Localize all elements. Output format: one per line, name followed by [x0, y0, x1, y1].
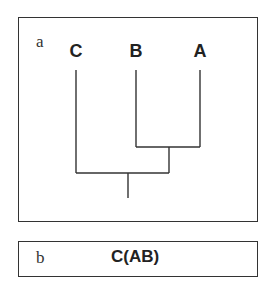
panel-b-notation: b C(AB) [18, 241, 258, 277]
panel-b-label: b [36, 248, 45, 268]
newick-notation: C(AB) [111, 247, 159, 267]
